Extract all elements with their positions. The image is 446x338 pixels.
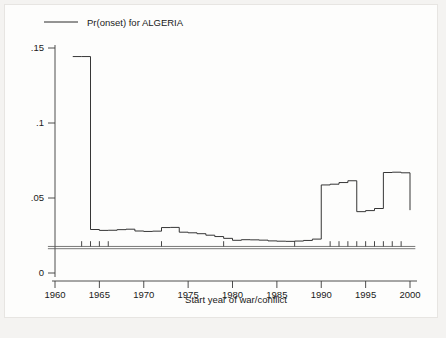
y-tick-label: 0	[39, 267, 44, 278]
legend-entry-label: Pr(onset) for ALGERIA	[87, 17, 184, 28]
y-tick-label: .15	[31, 42, 44, 53]
x-tick-label: 1990	[311, 289, 332, 300]
x-tick-label: 2000	[399, 289, 420, 300]
y-axis-ticks: 0.05.1.15	[31, 42, 55, 278]
chart-figure: Pr(onset) for ALGERIA 0.05.1.15 19601965…	[0, 0, 446, 338]
x-tick-label: 1995	[355, 289, 376, 300]
baseline-rules	[48, 246, 415, 248]
x-axis-title: Start year of war/conflict	[185, 294, 287, 305]
event-rug-plot	[82, 241, 402, 246]
y-tick-label: .05	[31, 192, 44, 203]
pr-onset-series-line	[73, 57, 410, 242]
chart-legend: Pr(onset) for ALGERIA	[44, 17, 184, 28]
x-tick-label: 1965	[89, 289, 110, 300]
y-tick-label: .1	[36, 117, 44, 128]
chart-svg: Pr(onset) for ALGERIA 0.05.1.15 19601965…	[0, 0, 446, 338]
x-tick-label: 1970	[133, 289, 154, 300]
figure-page: Pr(onset) for ALGERIA 0.05.1.15 19601965…	[0, 0, 446, 338]
x-tick-label: 1960	[44, 289, 65, 300]
